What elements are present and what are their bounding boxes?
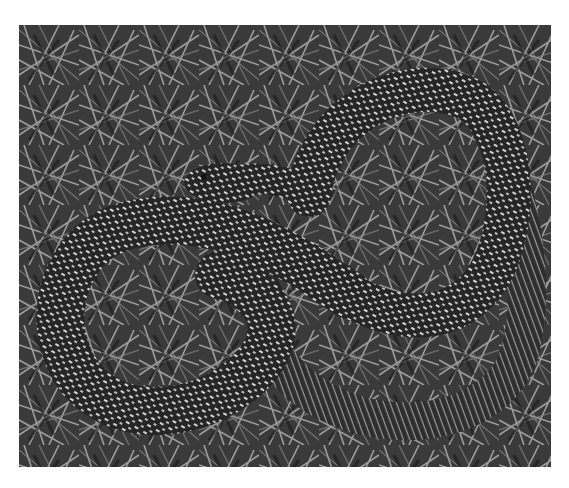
snake-photo <box>19 25 551 467</box>
snake-illustration <box>19 25 551 467</box>
